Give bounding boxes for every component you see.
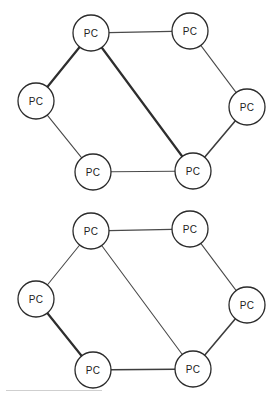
pc-node-label: PC bbox=[84, 226, 98, 237]
lower-network-diagram: PCPCPCPCPCPC bbox=[0, 198, 278, 396]
pc-node-label: PC bbox=[186, 364, 200, 375]
edge-m5-m6 bbox=[47, 313, 81, 356]
edge-m4-m5 bbox=[111, 369, 175, 370]
pc-node-label: PC bbox=[86, 167, 100, 178]
edge-n1-n4 bbox=[102, 47, 183, 156]
bottom-edge-artifact bbox=[6, 390, 102, 391]
pc-node-label: PC bbox=[240, 300, 254, 311]
node-right[interactable]: PC bbox=[229, 89, 265, 125]
edge-m3-m4 bbox=[205, 319, 236, 355]
pc-node-label: PC bbox=[186, 166, 200, 177]
upper-network-diagram: PCPCPCPCPCPC bbox=[0, 0, 278, 198]
edge-m1-m4 bbox=[102, 245, 183, 354]
node-left[interactable]: PC bbox=[18, 281, 54, 317]
edge-n6-n1 bbox=[47, 47, 79, 87]
node-top-right[interactable]: PC bbox=[172, 13, 208, 49]
pc-node-label: PC bbox=[84, 28, 98, 39]
edge-m2-m3 bbox=[201, 243, 236, 290]
node-bottom-right[interactable]: PC bbox=[175, 351, 211, 387]
diagram-canvas: PCPCPCPCPCPC PCPCPCPCPCPC bbox=[0, 0, 278, 396]
edge-m1-m2 bbox=[109, 229, 172, 230]
pc-node-label: PC bbox=[183, 26, 197, 37]
edge-n2-n3 bbox=[201, 45, 236, 92]
node-top-left[interactable]: PC bbox=[73, 15, 109, 51]
node-bottom-left[interactable]: PC bbox=[75, 352, 111, 388]
edge-n3-n4 bbox=[205, 121, 236, 157]
node-bottom-left[interactable]: PC bbox=[75, 154, 111, 190]
node-right[interactable]: PC bbox=[229, 287, 265, 323]
node-bottom-right[interactable]: PC bbox=[175, 153, 211, 189]
upper-edges-group bbox=[47, 31, 236, 171]
pc-node-label: PC bbox=[29, 294, 43, 305]
edge-m6-m1 bbox=[47, 245, 79, 285]
pc-node-label: PC bbox=[240, 102, 254, 113]
node-left[interactable]: PC bbox=[18, 83, 54, 119]
lower-edges-group bbox=[47, 229, 236, 369]
pc-node-label: PC bbox=[183, 224, 197, 235]
pc-node-label: PC bbox=[29, 96, 43, 107]
pc-node-label: PC bbox=[86, 365, 100, 376]
node-top-right[interactable]: PC bbox=[172, 211, 208, 247]
node-top-left[interactable]: PC bbox=[73, 213, 109, 249]
edge-n1-n2 bbox=[109, 31, 172, 32]
edge-n5-n6 bbox=[47, 115, 81, 158]
edge-n4-n5 bbox=[111, 171, 175, 172]
